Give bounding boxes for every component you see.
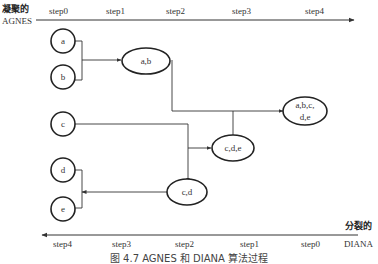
node-b-label: b [61,72,66,82]
node-e-label: e [61,204,65,214]
edge-a-b-bracket [75,41,82,80]
bottom-step-4: step4 [53,239,72,249]
top-step-0: step0 [49,6,68,16]
top-step-4: step4 [305,6,324,16]
agglomerative-label: 凝聚的 [2,3,29,14]
bottom-step-1: step1 [240,239,259,249]
figure-caption: 图 4.7 AGNES 和 DIANA 算法过程 [110,252,268,264]
node-a-label: a [61,36,65,46]
node-ab: a,b [122,48,170,74]
diana-label: DIANA [344,239,373,249]
divisive-label: 分裂的 [345,220,372,231]
node-abcde: a,b,c, d,e [283,97,327,125]
agnes-diana-diagram: 凝聚的 AGNES step0 step1 step2 step3 step4 … [0,0,378,264]
node-e: e [51,197,75,221]
node-a: a [51,29,75,53]
node-cde: c,d,e [212,135,254,161]
node-cd: c,d [167,179,207,205]
node-d: d [51,158,75,182]
bottom-step-3: step3 [112,239,131,249]
bottom-step-0: step0 [301,239,320,249]
bottom-step-2: step2 [175,239,194,249]
node-ab-label: a,b [141,56,152,66]
top-step-2: step2 [166,6,185,16]
edge-d-e-bracket [75,170,82,208]
edge-ab-to-abcde [172,60,283,111]
top-step-3: step3 [232,6,251,16]
edge-c-to-cd [75,124,188,182]
node-b: b [51,65,75,89]
node-cd-label: c,d [182,187,193,197]
agnes-label: AGNES [2,16,32,26]
node-c-label: c [61,119,65,129]
node-c: c [51,112,75,136]
node-abcde-label-2: d,e [300,112,311,122]
node-cde-label: c,d,e [225,143,242,153]
top-step-1: step1 [106,6,125,16]
node-d-label: d [61,165,66,175]
node-abcde-label-1: a,b,c, [295,100,314,110]
